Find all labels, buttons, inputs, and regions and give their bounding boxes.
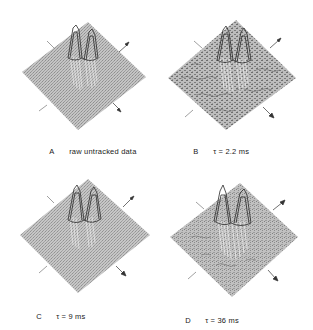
panel-caption: τ = 2.2 ms [213,147,249,156]
panel-caption: τ = 36 ms [205,316,239,325]
surface-plane [22,22,146,130]
panel-a: Araw untracked data [0,0,156,165]
panel-letter: A [49,147,69,156]
surface-plot-d [156,165,313,330]
panel-b: Bτ = 2.2 ms [156,0,312,165]
panel-letter: C [36,312,56,321]
panel-letter: D [185,316,205,325]
panel-caption: raw untracked data [69,147,136,156]
panel-d: Dτ = 36 ms [156,165,312,330]
caption-c: Cτ = 9 ms [27,303,86,330]
panel-caption: τ = 9 ms [56,312,85,321]
caption-b: Bτ = 2.2 ms [184,138,249,165]
panel-c: Cτ = 9 ms [0,165,156,330]
surface-plane [20,179,150,293]
caption-d: Dτ = 36 ms [176,307,239,330]
panel-letter: B [193,147,213,156]
surface-plane [168,20,296,130]
caption-a: Araw untracked data [40,138,137,165]
